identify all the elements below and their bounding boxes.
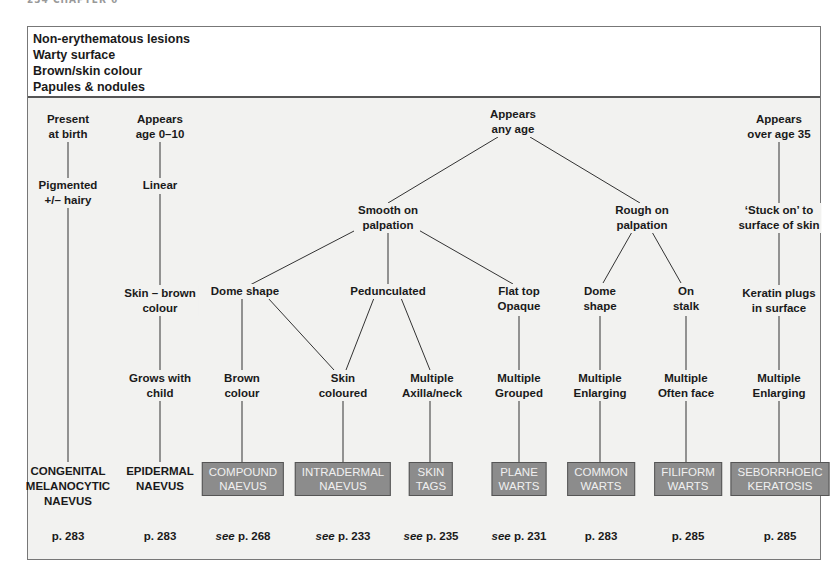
node-text: Appears (490, 107, 536, 122)
node-text: at birth (47, 127, 89, 142)
node-multiple-grouped: Multiple Grouped (493, 371, 545, 401)
page-ref-text: p. 285 (764, 530, 797, 542)
node-text: Opaque (498, 299, 541, 314)
diagnosis-text: WARTS (661, 479, 715, 493)
node-text: Skin (319, 371, 368, 386)
node-text: Pigmented (39, 178, 98, 193)
node-skin-brown-colour: Skin – brown colour (122, 286, 198, 316)
node-stuck-on: ‘Stuck on’ to surface of skin (736, 203, 821, 233)
node-text: Flat top (498, 284, 541, 299)
diagnosis-box-plane-warts[interactable]: PLANE WARTS (492, 462, 547, 496)
node-multiple-often-face: Multiple Often face (656, 371, 716, 401)
node-text: ‘Stuck on’ to (738, 203, 819, 218)
node-present-at-birth: Present at birth (45, 112, 91, 142)
node-text: Enlarging (573, 386, 626, 401)
page-ref-text: p. 283 (52, 530, 85, 542)
node-text: Rough on (615, 203, 669, 218)
page-ref-text: p. 283 (585, 530, 618, 542)
node-text: Pedunculated (350, 284, 425, 299)
page-ref-text: p. 285 (672, 530, 705, 542)
page-ref-common-warts[interactable]: p. 283 (585, 530, 618, 542)
node-keratin-plugs: Keratin plugs in surface (740, 286, 817, 316)
diagnosis-text: CONGENITAL (26, 464, 110, 479)
diagnosis-epidermal-naevus: EPIDERMAL NAEVUS (126, 464, 194, 494)
diagnosis-text: NAEVUS (126, 479, 194, 494)
node-appears-age-0-10: Appears age 0–10 (134, 112, 187, 142)
page-ref-compound[interactable]: see p. 268 (216, 530, 271, 542)
page-ref-filiform-warts[interactable]: p. 285 (672, 530, 705, 542)
diagnosis-text: SEBORRHOEIC (738, 465, 823, 479)
node-text: Grouped (495, 386, 543, 401)
diagnosis-box-seborrhoeic-keratosis[interactable]: SEBORRHOEIC KERATOSIS (731, 462, 830, 496)
node-text: Appears (136, 112, 185, 127)
node-text: palpation (358, 218, 418, 233)
see-prefix: see (404, 530, 423, 542)
node-text: over age 35 (747, 127, 810, 142)
node-text: in surface (742, 301, 815, 316)
node-text: Multiple (402, 371, 462, 386)
node-text: coloured (319, 386, 368, 401)
diagnosis-text: COMMON (574, 465, 628, 479)
diagnosis-box-intradermal-naevus[interactable]: INTRADERMAL NAEVUS (295, 462, 391, 496)
node-text: Keratin plugs (742, 286, 815, 301)
see-prefix: see (492, 530, 511, 542)
diagnosis-box-compound-naevus[interactable]: COMPOUND NAEVUS (202, 462, 284, 496)
node-text: Dome (583, 284, 616, 299)
page-ref-text: p. 233 (338, 530, 371, 542)
diagnosis-text: FILIFORM (661, 465, 715, 479)
page-ref-intradermal[interactable]: see p. 233 (316, 530, 371, 542)
diagnosis-text: NAEVUS (302, 479, 384, 493)
diagnosis-text: SKIN (416, 465, 446, 479)
node-text: Multiple (495, 371, 543, 386)
node-appears-over-35: Appears over age 35 (745, 112, 812, 142)
page-ref-text: p. 235 (426, 530, 459, 542)
node-text: Brown (224, 371, 260, 386)
node-text: Grows with (129, 371, 191, 386)
node-multiple-enlarging-common: Multiple Enlarging (571, 371, 628, 401)
diagnosis-text: INTRADERMAL (302, 465, 384, 479)
diagnosis-text: NAEVUS (26, 494, 110, 509)
node-text: surface of skin (738, 218, 819, 233)
diagnosis-text: TAGS (416, 479, 446, 493)
node-text: stalk (673, 299, 699, 314)
node-linear: Linear (141, 178, 180, 193)
diagnosis-text: PLANE (499, 465, 540, 479)
node-text: Linear (143, 178, 178, 193)
see-prefix: see (216, 530, 235, 542)
page-ref-text: p. 268 (238, 530, 271, 542)
diagnosis-text: COMPOUND (209, 465, 277, 479)
node-text: Multiple (752, 371, 805, 386)
node-on-stalk: On stalk (671, 284, 701, 314)
diagnosis-box-filiform-warts[interactable]: FILIFORM WARTS (654, 462, 722, 496)
diagnosis-box-skin-tags[interactable]: SKIN TAGS (409, 462, 453, 496)
diagnosis-text: NAEVUS (209, 479, 277, 493)
diagnosis-box-common-warts[interactable]: COMMON WARTS (567, 462, 635, 496)
page-ref-seborrhoeic[interactable]: p. 285 (764, 530, 797, 542)
node-text: any age (490, 122, 536, 137)
node-dome-shape-rough: Dome shape (581, 284, 618, 314)
node-text: Multiple (658, 371, 714, 386)
diagnosis-congenital-melanocytic-naevus: CONGENITAL MELANOCYTIC NAEVUS (26, 464, 110, 509)
node-text: Multiple (573, 371, 626, 386)
node-multiple-axilla-neck: Multiple Axilla/neck (400, 371, 464, 401)
node-pedunculated: Pedunculated (348, 284, 427, 299)
node-text: Smooth on (358, 203, 418, 218)
node-text: +/– hairy (39, 193, 98, 208)
node-text: On (673, 284, 699, 299)
node-dome-shape-smooth: Dome shape (209, 284, 281, 299)
diagnosis-text: EPIDERMAL (126, 464, 194, 479)
node-appears-any-age: Appears any age (488, 107, 538, 137)
node-text: Dome shape (211, 284, 279, 299)
node-text: colour (124, 301, 196, 316)
page-ref-plane-warts[interactable]: see p. 231 (492, 530, 547, 542)
see-prefix: see (316, 530, 335, 542)
node-text: age 0–10 (136, 127, 185, 142)
page-ref-text: p. 231 (514, 530, 547, 542)
page-ref-epidermal[interactable]: p. 283 (144, 530, 177, 542)
page-ref-skin-tags[interactable]: see p. 235 (404, 530, 459, 542)
node-text: Appears (747, 112, 810, 127)
page-ref-congenital[interactable]: p. 283 (52, 530, 85, 542)
node-multiple-enlarging-sebo: Multiple Enlarging (750, 371, 807, 401)
node-smooth-on-palpation: Smooth on palpation (356, 203, 420, 233)
node-text: Skin – brown (124, 286, 196, 301)
